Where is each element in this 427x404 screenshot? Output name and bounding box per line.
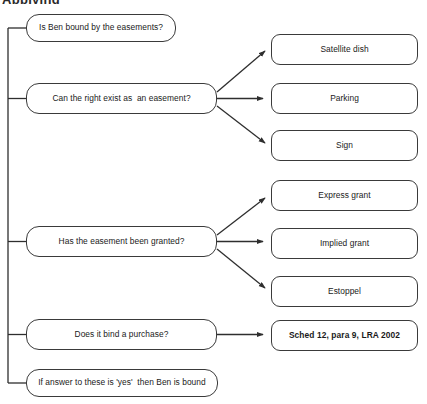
node-label: Does it bind a purchase? [75, 330, 169, 340]
node-sched-12-para-9-lra-2002[interactable]: Sched 12, para 9, LRA 2002 [271, 320, 418, 351]
arrow-granted-to-express [217, 198, 265, 235]
node-has-easement-been-granted[interactable]: Has the easement been granted? [26, 226, 217, 257]
node-satellite-dish[interactable]: Satellite dish [271, 34, 418, 65]
node-does-it-bind-a-purchase[interactable]: Does it bind a purchase? [26, 319, 217, 350]
arrow-group-exist [217, 51, 265, 143]
node-label: Sched 12, para 9, LRA 2002 [289, 331, 400, 341]
node-can-right-exist[interactable]: Can the right exist as an easement? [26, 83, 217, 114]
node-label: Implied grant [320, 239, 369, 249]
spine-group [8, 28, 26, 383]
node-sign[interactable]: Sign [271, 130, 418, 161]
node-label: Estoppel [328, 287, 361, 297]
node-label: Satellite dish [320, 45, 368, 55]
node-is-ben-bound[interactable]: Is Ben bound by the easements? [26, 14, 176, 42]
node-label: Can the right exist as an easement? [52, 94, 190, 104]
arrow-exist-to-satellite [217, 51, 265, 92]
node-label: Express grant [318, 191, 370, 201]
node-label: Sign [336, 141, 353, 151]
flowchart-diagram: Applying [0, 0, 427, 404]
node-parking[interactable]: Parking [271, 83, 418, 114]
node-label: Parking [330, 94, 359, 104]
arrow-exist-to-sign [217, 106, 265, 143]
node-implied-grant[interactable]: Implied grant [271, 228, 418, 259]
node-label: Is Ben bound by the easements? [39, 23, 163, 33]
page-heading: Applying [2, 0, 60, 4]
node-express-grant[interactable]: Express grant [271, 180, 418, 211]
node-label: If answer to these is 'yes' then Ben is … [38, 378, 206, 388]
node-conclusion-ben-is-bound[interactable]: If answer to these is 'yes' then Ben is … [26, 369, 218, 397]
node-estoppel[interactable]: Estoppel [271, 276, 418, 307]
arrow-granted-to-estoppel [217, 249, 265, 288]
node-label: Has the easement been granted? [59, 237, 185, 247]
arrow-group-granted [217, 198, 265, 288]
